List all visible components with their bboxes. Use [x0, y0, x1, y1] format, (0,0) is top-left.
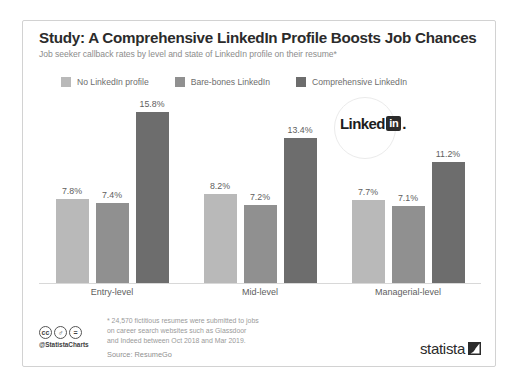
bar-managerial-bare-bones[interactable]: 7.1% [392, 81, 425, 283]
linkedin-in-icon: in [386, 116, 401, 131]
statista-logo: statista [420, 340, 481, 359]
bar-rect [392, 206, 425, 283]
cc-icon: cc [39, 326, 52, 339]
creative-commons-icons: cc ♂ = [39, 326, 105, 339]
bar-value-label: 7.1% [380, 193, 437, 203]
bar-value-label: 7.2% [232, 192, 289, 202]
x-axis-label-managerial-level: Managerial-level [343, 287, 473, 297]
bar-group-entry-level: 7.8% 7.4% 15.8% [47, 81, 177, 283]
creative-commons-block: cc ♂ = @StatistaCharts [39, 316, 105, 348]
bar-rect [244, 205, 277, 283]
x-axis-label-mid-level: Mid-level [195, 287, 325, 297]
statista-mark-icon [468, 342, 481, 355]
bar-mid-bare-bones[interactable]: 7.2% [244, 81, 277, 283]
bar-value-label: 13.4% [272, 125, 329, 135]
bar-managerial-comprehensive[interactable]: 11.2% [432, 81, 465, 283]
linkedin-wordmark: Linked [340, 115, 385, 132]
bar-mid-no-profile[interactable]: 8.2% [204, 81, 237, 283]
bar-entry-no-profile[interactable]: 7.8% [56, 81, 89, 283]
bar-rect [352, 200, 385, 283]
chart-footer: cc ♂ = @StatistaCharts * 24,570 fictitio… [39, 316, 481, 359]
statista-wordmark: statista [420, 340, 465, 357]
bar-entry-comprehensive[interactable]: 15.8% [136, 81, 169, 283]
cc-by-icon: ♂ [54, 326, 67, 339]
bar-value-label: 11.2% [420, 149, 477, 159]
x-axis-label-entry-level: Entry-level [47, 287, 177, 297]
footnote-block: * 24,570 fictitious resumes were submitt… [105, 316, 259, 359]
bar-rect [284, 138, 317, 283]
statista-charts-handle: @StatistaCharts [39, 341, 105, 348]
bar-value-label: 7.4% [84, 190, 141, 200]
axis-baseline [39, 283, 481, 284]
bar-value-label: 15.8% [124, 99, 181, 109]
bar-entry-bare-bones[interactable]: 7.4% [96, 81, 129, 283]
linkedin-logo: Linked in . [340, 115, 406, 132]
linkedin-dot: . [402, 115, 406, 132]
bar-group-mid-level: 8.2% 7.2% 13.4% [195, 81, 325, 283]
bar-rect [96, 203, 129, 283]
bar-rect [56, 199, 89, 283]
bar-mid-comprehensive[interactable]: 13.4% [284, 81, 317, 283]
bar-rect [204, 194, 237, 283]
footer-left: cc ♂ = @StatistaCharts * 24,570 fictitio… [39, 316, 259, 359]
bar-value-label: 8.2% [192, 181, 249, 191]
source-text: Source: ResumeGo [107, 350, 259, 359]
bar-rect [136, 112, 169, 283]
infographic-card: Study: A Comprehensive LinkedIn Profile … [22, 20, 496, 367]
cc-nd-icon: = [69, 326, 82, 339]
footnote-text: * 24,570 fictitious resumes were submitt… [107, 316, 259, 346]
bar-rect [432, 162, 465, 283]
